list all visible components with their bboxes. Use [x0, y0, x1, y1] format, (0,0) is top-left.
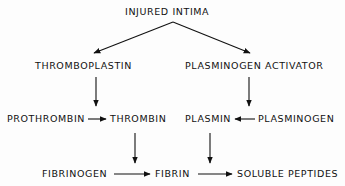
coagulation-fibrinolysis-diagram: INJURED INTIMA THROMBOPLASTIN PLASMINOGE…: [0, 0, 345, 186]
node-thromboplastin: THROMBOPLASTIN: [35, 60, 132, 71]
node-plasmin: PLASMIN: [185, 113, 231, 124]
node-thrombin: THROMBIN: [110, 113, 166, 124]
arrow-intima-to-plasminogen-activator: [173, 22, 250, 53]
arrows-layer: [0, 0, 345, 186]
node-plasminogen: PLASMINOGEN: [258, 113, 334, 124]
node-fibrin: FIBRIN: [155, 168, 190, 179]
node-prothrombin: PROTHROMBIN: [7, 113, 85, 124]
node-fibrinogen: FIBRINOGEN: [42, 168, 107, 179]
node-soluble-peptides: SOLUBLE PEPTIDES: [237, 168, 338, 179]
node-injured-intima: INJURED INTIMA: [125, 6, 209, 17]
node-plasminogen-activator: PLASMINOGEN ACTIVATOR: [185, 60, 324, 71]
arrow-intima-to-thromboplastin: [94, 22, 173, 53]
